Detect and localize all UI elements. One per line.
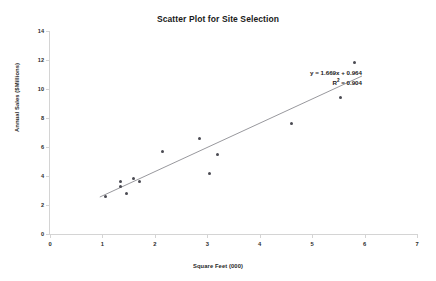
x-tick-mark [207,234,208,238]
r-squared-value: = 0.904 [339,79,362,86]
y-tick-label: 10 [38,86,44,92]
x-tick-label: 2 [153,241,156,247]
data-point [119,185,122,188]
regression-annotation: y = 1.669x + 0.964 R2 = 0.904 [262,69,362,88]
y-tick-label: 8 [41,115,44,121]
y-tick-label: 4 [41,173,44,179]
y-tick-label: 0 [41,231,44,237]
y-tick-label: 14 [38,28,44,34]
y-tick-label: 2 [41,202,44,208]
plot-area: 02468101214 01234567 [50,31,417,234]
x-tick-mark [102,234,103,238]
x-tick-label: 1 [101,241,104,247]
regression-equation: y = 1.669x + 0.964 [262,69,362,78]
y-tick-mark [46,147,50,148]
x-tick-mark [312,234,313,238]
y-axis-label: Annual Sales ($Millions) [14,63,20,132]
y-tick-mark [46,205,50,206]
data-point [104,195,107,198]
y-tick-mark [46,60,50,61]
y-tick-label: 6 [41,144,44,150]
y-tick-mark [46,176,50,177]
data-point [125,192,128,195]
data-point [198,137,201,140]
y-tick-mark [46,89,50,90]
x-tick-mark [260,234,261,238]
x-tick-mark [50,234,51,238]
y-tick-label: 12 [38,57,44,63]
r-squared-label: R2 = 0.904 [262,78,362,88]
x-axis-line [49,234,418,235]
y-tick-mark [46,118,50,119]
x-tick-mark [155,234,156,238]
x-tick-mark [365,234,366,238]
x-tick-label: 7 [415,241,418,247]
x-tick-label: 3 [206,241,209,247]
trendline [50,31,417,234]
x-tick-label: 0 [48,241,51,247]
x-tick-label: 5 [311,241,314,247]
x-axis-label: Square Feet (000) [0,263,436,269]
y-tick-mark [46,31,50,32]
x-tick-mark [417,234,418,238]
x-tick-label: 4 [258,241,261,247]
chart-title: Scatter Plot for Site Selection [0,14,436,24]
scatter-chart: Scatter Plot for Site Selection Annual S… [0,0,436,281]
x-tick-label: 6 [363,241,366,247]
